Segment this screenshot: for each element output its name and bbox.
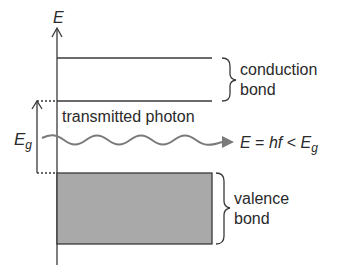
photon-equation: E = hf < Eg [240,133,318,158]
photon-wave [42,135,222,145]
valence-label-line2: bond [234,209,270,228]
axis-label: E [53,8,64,27]
conduction-brace-icon [222,58,236,101]
gap-label: Eg [14,130,32,155]
valence-label-line1: valence [234,189,289,208]
photon-label: transmitted photon [62,107,195,126]
valence-brace-icon [216,173,230,244]
photon-arrowhead-icon [222,136,234,148]
conduction-label-line1: conduction [240,60,317,79]
valence-band [57,173,212,244]
conduction-label-line2: bond [240,80,276,99]
